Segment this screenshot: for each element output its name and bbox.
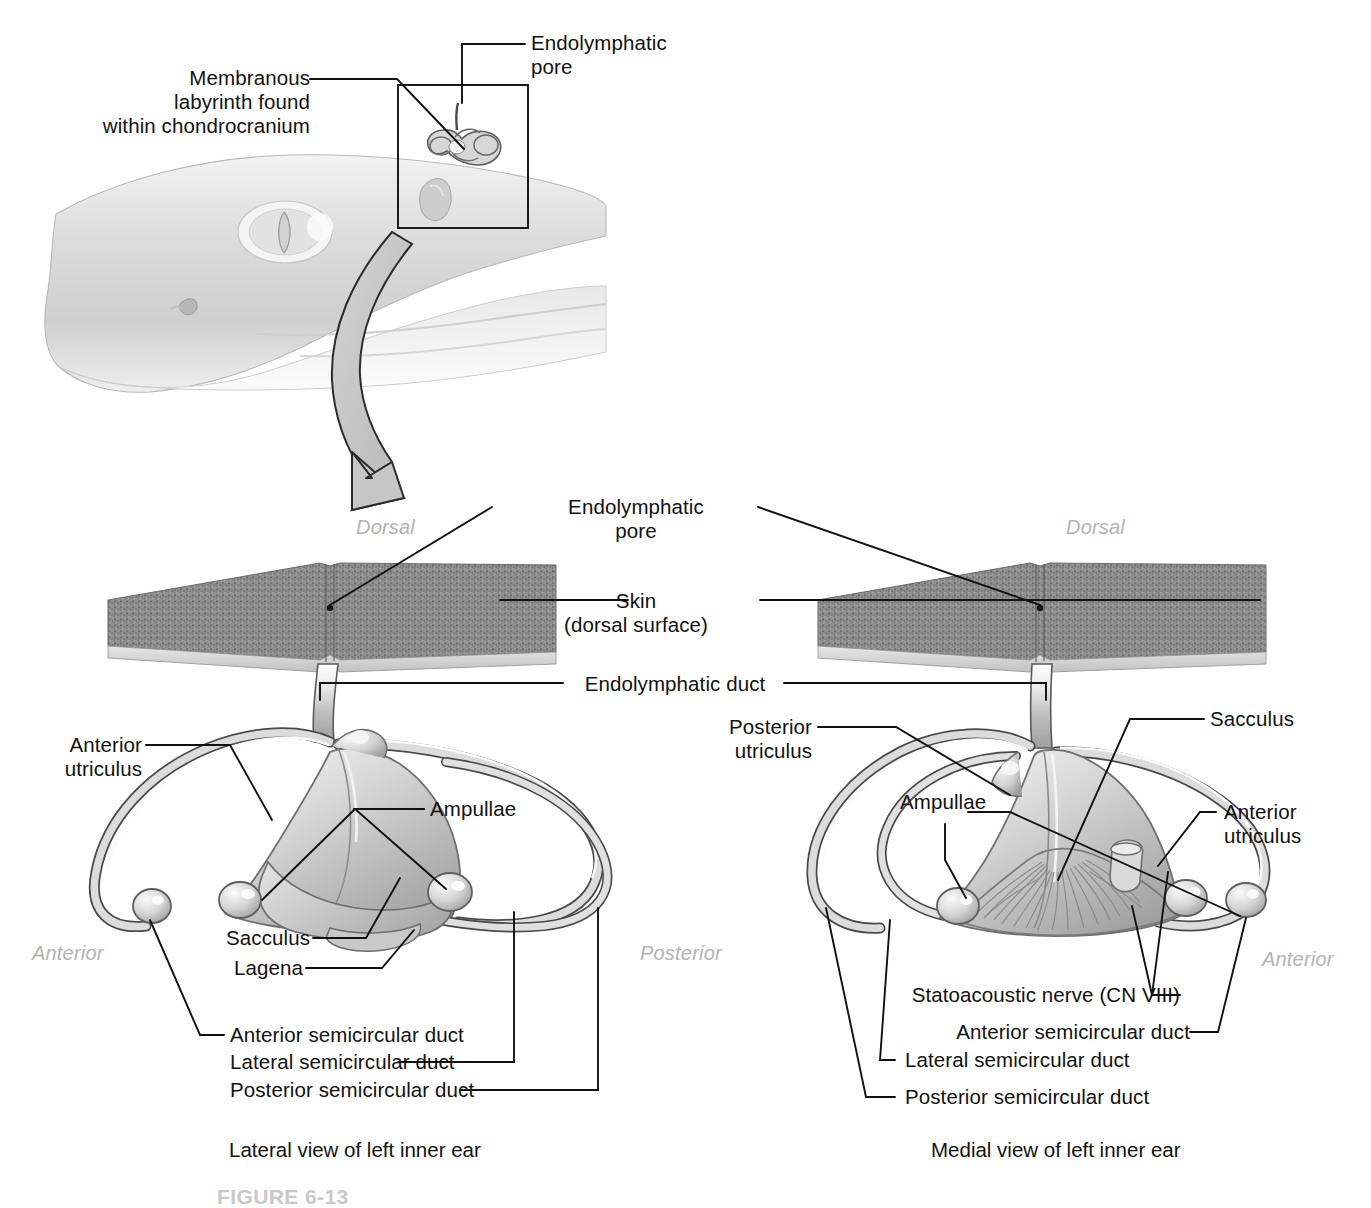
label-skin: Skin bbox=[566, 589, 706, 613]
label-left-lateral-semicircular-duct: Lateral semicircular duct bbox=[230, 1050, 455, 1074]
label-membranous-labyrinth: Membranous labyrinth found within chondr… bbox=[22, 66, 310, 138]
left-inner-ear bbox=[94, 664, 607, 951]
caption-lateral-view: Lateral view of left inner ear bbox=[229, 1138, 481, 1162]
orientation-dorsal-right: Dorsal bbox=[1066, 516, 1125, 539]
label-skin-dorsal-surface: (dorsal surface) bbox=[546, 613, 726, 637]
caption-medial-view: Medial view of left inner ear bbox=[931, 1138, 1181, 1162]
label-right-anterior-utriculus-line2: utriculus bbox=[1224, 824, 1301, 848]
orientation-anterior-left: Anterior bbox=[32, 942, 104, 965]
label-right-sacculus: Sacculus bbox=[1210, 707, 1294, 731]
label-left-anterior-semicircular-duct: Anterior semicircular duct bbox=[230, 1023, 464, 1047]
label-right-anterior-utriculus: Anterior bbox=[1224, 800, 1297, 824]
skin-patch-right bbox=[818, 563, 1266, 672]
label-left-lagena: Lagena bbox=[170, 956, 303, 980]
label-left-anterior-utriculus: Anterior utriculus bbox=[0, 733, 142, 781]
label-left-posterior-semicircular-duct: Posterior semicircular duct bbox=[230, 1078, 474, 1102]
label-right-statoacoustic-nerve: Statoacoustic nerve (CN VIII) bbox=[880, 983, 1180, 1007]
label-right-posterior-semicircular-duct: Posterior semicircular duct bbox=[905, 1085, 1149, 1109]
orientation-anterior-right: Anterior bbox=[1262, 948, 1334, 971]
skin-patch-left bbox=[108, 563, 556, 672]
label-right-lateral-semicircular-duct: Lateral semicircular duct bbox=[905, 1048, 1130, 1072]
label-endolymphatic-pore-center: Endolymphatic pore bbox=[520, 495, 752, 543]
figure-caption: FIGURE 6-13 bbox=[217, 1185, 349, 1208]
orientation-posterior-center: Posterior bbox=[640, 942, 722, 965]
label-endolymphatic-pore-head: Endolymphatic pore bbox=[531, 31, 761, 79]
label-right-anterior-semicircular-duct: Anterior semicircular duct bbox=[900, 1020, 1190, 1044]
label-right-posterior-utriculus: Posterior utriculus bbox=[670, 715, 812, 763]
label-right-ampullae: Ampullae bbox=[900, 790, 986, 814]
label-endolymphatic-duct: Endolymphatic duct bbox=[565, 672, 785, 696]
label-left-sacculus: Sacculus bbox=[170, 926, 310, 950]
right-inner-ear bbox=[812, 664, 1266, 936]
label-left-ampullae: Ampullae bbox=[430, 797, 516, 821]
orientation-dorsal-left: Dorsal bbox=[356, 516, 415, 539]
